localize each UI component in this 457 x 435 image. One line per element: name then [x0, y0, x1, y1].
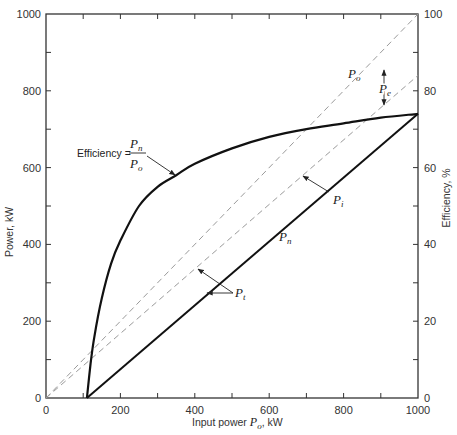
efficiency-numerator: Pn [129, 136, 143, 153]
y-tick-label-right: 20 [424, 315, 436, 327]
chart: 0200400600800100002004006008001000020406… [0, 0, 457, 435]
x-tick-label: 600 [260, 404, 278, 416]
y-tick-label-left: 0 [35, 392, 41, 404]
axis-tick-labels: 0200400600800100002004006008001000020406… [17, 8, 443, 416]
y-tick-label-left: 200 [23, 315, 41, 327]
y-tick-label-left: 800 [23, 85, 41, 97]
y-axis-title-left: Power, kW [3, 207, 15, 257]
p-t-pointer-arrow-upper [198, 269, 233, 293]
label-p-n: Pn [278, 229, 292, 246]
x-tick-label: 800 [334, 404, 352, 416]
x-tick-label: 200 [111, 404, 129, 416]
efficiency-label: Efficiency = [77, 147, 131, 159]
y-tick-label-left: 1000 [17, 8, 41, 20]
x-tick-label: 1000 [406, 404, 430, 416]
label-p-i: Pi [332, 192, 344, 209]
efficiency-pointer-arrow [147, 156, 175, 175]
label-p-e: Pe [378, 81, 391, 98]
y-tick-label-left: 600 [23, 162, 41, 174]
label-p-t: Pt [234, 285, 246, 302]
p-i-pointer-arrow [303, 176, 329, 192]
y-tick-label-right: 80 [424, 85, 436, 97]
y-tick-label-right: 40 [424, 238, 436, 250]
y-tick-label-left: 400 [23, 238, 41, 250]
x-tick-label: 0 [43, 404, 49, 416]
line-p-o [46, 14, 418, 398]
x-tick-label: 400 [186, 404, 204, 416]
y-axis-title-right: Efficiency, % [440, 168, 452, 227]
y-tick-label-right: 0 [424, 392, 430, 404]
x-axis-title: Input power Po, kW [192, 415, 283, 431]
label-p-o: Po [347, 66, 361, 83]
line-p-i [46, 75, 418, 398]
y-tick-label-right: 100 [424, 8, 442, 20]
y-tick-label-right: 60 [424, 162, 436, 174]
efficiency-denominator: Po [129, 156, 143, 173]
